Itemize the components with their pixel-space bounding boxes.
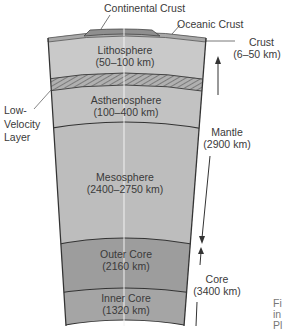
continental-crust-leader xyxy=(101,15,110,29)
low-velocity-line3: Layer xyxy=(4,131,40,145)
arrowhead-down-icon xyxy=(199,236,205,244)
inner-core-label: Inner Core (1320 km) xyxy=(94,292,158,316)
core-name: Core xyxy=(189,273,245,285)
lithosphere-label: Lithosphere (50–100 km) xyxy=(94,44,156,68)
outer-core-name: Outer Core xyxy=(94,248,158,260)
core-label: Core (3400 km) xyxy=(189,273,245,297)
lithosphere-thickness: (50–100 km) xyxy=(94,56,156,68)
asthenosphere-name: Asthenosphere xyxy=(88,94,164,106)
mesosphere-label: Mesosphere (2400–2750 km) xyxy=(82,171,168,195)
crust-name: Crust xyxy=(232,36,282,48)
crust-label: Crust (6–50 km) xyxy=(232,36,282,60)
low-velocity-line2: Velocity xyxy=(4,118,40,132)
mantle-arrow-down xyxy=(202,156,210,238)
outer-core-thickness: (2160 km) xyxy=(94,260,158,272)
core-range: (3400 km) xyxy=(189,285,245,297)
asthenosphere-label: Asthenosphere (100–400 km) xyxy=(88,94,164,118)
outer-core-label: Outer Core (2160 km) xyxy=(94,248,158,272)
mesosphere-thickness: (2400–2750 km) xyxy=(82,183,168,195)
low-velocity-line1: Low- xyxy=(4,104,40,118)
mantle-name: Mantle xyxy=(200,126,254,138)
inner-core-thickness: (1320 km) xyxy=(94,304,158,316)
figure-caption-fragment: Fi in Pl xyxy=(273,298,282,331)
asthenosphere-thickness: (100–400 km) xyxy=(88,106,164,118)
caption-line3: Pl xyxy=(273,320,282,331)
mantle-range: (2900 km) xyxy=(200,138,254,150)
arrowhead-up-icon xyxy=(215,56,221,64)
core-arrow-down xyxy=(196,302,197,326)
lithosphere-name: Lithosphere xyxy=(94,44,156,56)
low-velocity-layer-label: Low- Velocity Layer xyxy=(4,104,40,145)
inner-core-name: Inner Core xyxy=(94,292,158,304)
arrowhead-up-icon xyxy=(198,247,204,254)
mantle-label: Mantle (2900 km) xyxy=(200,126,254,150)
oceanic-crust-label: Oceanic Crust xyxy=(177,18,244,30)
crust-range: (6–50 km) xyxy=(232,48,282,60)
continental-crust-label: Continental Crust xyxy=(104,2,185,14)
mesosphere-name: Mesosphere xyxy=(82,171,168,183)
